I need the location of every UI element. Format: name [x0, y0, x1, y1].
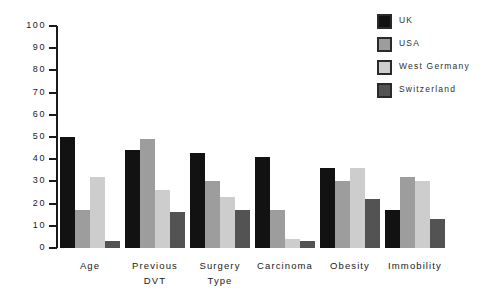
bar-group: [320, 26, 380, 248]
y-axis-tick-label: 50: [6, 132, 46, 141]
bar: [90, 177, 105, 248]
y-axis-tick-label: 20: [6, 199, 46, 208]
bar: [220, 197, 235, 248]
bar: [155, 190, 170, 248]
bar: [415, 181, 430, 248]
y-axis-tick: [49, 47, 57, 49]
bar: [140, 139, 155, 248]
bar: [385, 210, 400, 248]
bar-group: [385, 26, 445, 248]
y-axis-tick-label: 80: [6, 65, 46, 74]
bar: [350, 168, 365, 248]
legend-label: USA: [399, 38, 420, 48]
bar: [105, 241, 120, 248]
bar: [235, 210, 250, 248]
bar-chart: 0102030405060708090100 AgePreviousDVTSur…: [0, 0, 490, 305]
bar: [365, 199, 380, 248]
bar-group: [60, 26, 120, 248]
bar: [320, 168, 335, 248]
y-axis-tick-label: 0: [6, 243, 46, 252]
bar-group: [125, 26, 185, 248]
y-axis-tick-label: 90: [6, 43, 46, 52]
plot-area: [58, 26, 458, 248]
y-axis-tick: [49, 25, 57, 27]
bar: [255, 157, 270, 248]
legend-swatch: [377, 83, 392, 98]
x-axis-label: Immobility: [360, 258, 470, 273]
bar-group: [190, 26, 250, 248]
bar: [300, 241, 315, 248]
y-axis-tick: [49, 69, 57, 71]
y-axis-tick: [49, 114, 57, 116]
y-axis-tick: [49, 225, 57, 227]
y-axis-tick-label: 10: [6, 221, 46, 230]
legend-label: Switzerland: [399, 84, 456, 94]
y-axis-tick-label: 30: [6, 176, 46, 185]
bar: [400, 177, 415, 248]
y-axis-tick: [49, 247, 57, 249]
y-axis-tick: [49, 136, 57, 138]
y-axis-tick-label: 70: [6, 88, 46, 97]
bar: [205, 181, 220, 248]
bar: [125, 150, 140, 248]
bar: [75, 210, 90, 248]
bar: [285, 239, 300, 248]
legend-swatch: [377, 37, 392, 52]
y-axis-tick: [49, 180, 57, 182]
y-axis-tick-label: 100: [6, 21, 46, 30]
y-axis-tick-label: 40: [6, 154, 46, 163]
x-axis-label-line: Type: [165, 273, 275, 288]
y-axis-tick: [49, 158, 57, 160]
bar: [190, 153, 205, 248]
bar: [335, 181, 350, 248]
bar: [430, 219, 445, 248]
legend-label: UK: [399, 15, 413, 25]
y-axis-tick-label: 60: [6, 110, 46, 119]
y-axis-tick: [49, 203, 57, 205]
legend-swatch: [377, 14, 392, 29]
bar: [60, 137, 75, 248]
legend-swatch: [377, 60, 392, 75]
legend-label: West Germany: [399, 61, 470, 71]
bar: [270, 210, 285, 248]
bar: [170, 212, 185, 248]
x-axis-label-line: Immobility: [360, 258, 470, 273]
bar-group: [255, 26, 315, 248]
y-axis-tick: [49, 92, 57, 94]
